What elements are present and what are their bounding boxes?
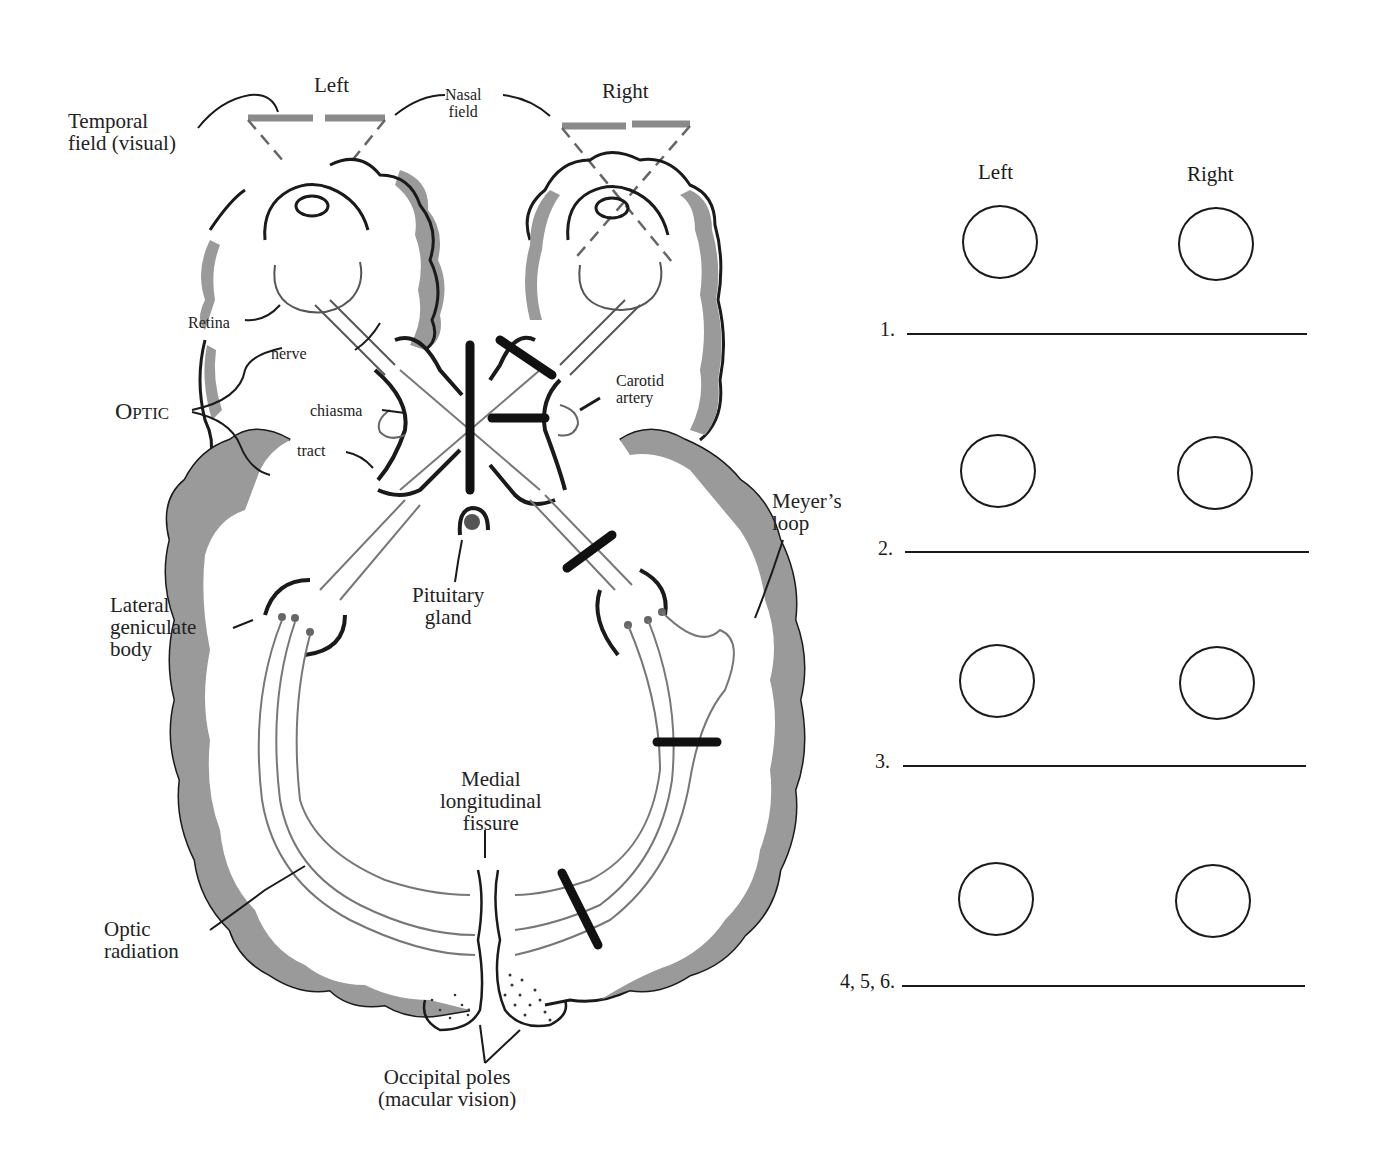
worksheet-right-column-header: Right [1187,162,1234,187]
nasal-field-label: Nasal field [445,86,481,120]
medial-longitudinal-fissure-label: Medial longitudinal fissure [440,768,542,834]
answer-number-1: 1. [805,318,895,341]
right-visual-field-circle-3[interactable] [1179,646,1255,720]
left-visual-field-circle-2[interactable] [960,434,1036,508]
brain-outline [166,153,804,1017]
right-eye-label: Right [602,80,649,102]
answer-line-3[interactable] [903,765,1306,767]
answer-number-4-5-6: 4, 5, 6. [805,970,895,993]
visual-pathway-diagram [0,0,1373,1164]
optic-nerve-label: nerve [271,345,307,362]
right-visual-field-circle-2[interactable] [1177,436,1253,510]
answer-number-3: 3. [800,750,890,773]
right-visual-field-circle-1[interactable] [1178,207,1254,281]
left-visual-field-circle-1[interactable] [962,205,1038,279]
left-visual-field-circle-4[interactable] [958,862,1034,936]
temporal-field-label: Temporal field (visual) [68,110,176,154]
retina-label: Retina [188,314,230,331]
answer-number-2: 2. [803,537,893,560]
worksheet-left-column-header: Left [978,160,1013,185]
answer-line-1[interactable] [907,333,1307,335]
optic-label: Optic [115,400,169,422]
meyers-loop-label: Meyer’s loop [772,490,842,534]
lateral-geniculate-body-label: Lateral geniculate body [110,594,196,660]
lesion-markers [470,340,717,945]
optic-chiasma-label: chiasma [310,402,362,419]
right-visual-field-circle-4[interactable] [1175,864,1251,938]
carotid-artery-label: Carotid artery [616,372,664,406]
pituitary-gland [460,508,488,535]
left-visual-field-circle-3[interactable] [959,644,1035,718]
lesion-right-optic-nerve [500,340,552,375]
optic-tract-label: tract [297,442,325,459]
left-eye-label: Left [314,74,349,96]
optic-radiation-label: Optic radiation [104,918,179,962]
answer-line-2[interactable] [905,551,1309,553]
answer-line-4-5-6[interactable] [902,985,1305,987]
occipital-poles-label: Occipital poles (macular vision) [378,1066,516,1110]
pituitary-gland-label: Pituitary gland [412,584,484,628]
